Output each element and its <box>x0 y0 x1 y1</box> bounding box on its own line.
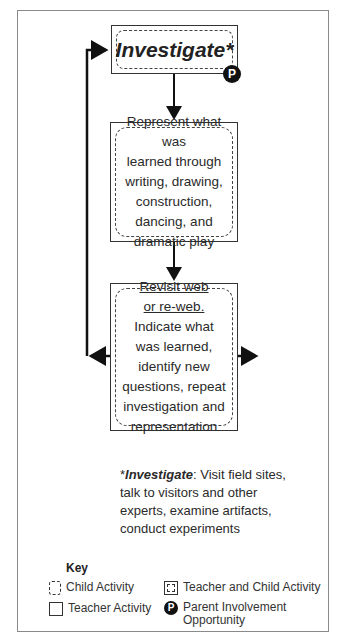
step-investigate-title: Investigate* <box>116 40 234 60</box>
key-item-parent: P Parent Involvement Opportunity <box>164 601 286 627</box>
key-label: Child Activity <box>66 581 134 594</box>
footnote-term: Investigate <box>125 467 193 482</box>
text-line: investigation and <box>123 397 224 417</box>
step-represent: Represent what was learned through writi… <box>110 122 238 242</box>
parent-involvement-icon: P <box>223 65 241 83</box>
text-line: identify new <box>138 357 209 377</box>
step-revisit: Revisit web or re-web. Indicate what was… <box>110 283 238 431</box>
text-line: questions, repeat <box>122 377 226 397</box>
parent-involvement-icon: P <box>164 601 178 615</box>
text-line: writing, drawing, <box>125 172 223 192</box>
arrow-loop-back <box>87 50 106 356</box>
text-line-underlined: or re-web. <box>144 297 205 317</box>
text-line: construction, <box>136 192 213 212</box>
key-label-group: Parent Involvement Opportunity <box>183 601 286 627</box>
child-activity-icon <box>49 581 61 595</box>
key-label: Teacher and Child Activity <box>183 581 320 594</box>
text-line: dancing, and <box>135 212 212 232</box>
text-line: Indicate what <box>134 317 214 337</box>
text-line: learned through <box>127 152 222 172</box>
teacher-activity-icon <box>49 602 63 616</box>
key-item-teacher: Teacher Activity <box>49 602 151 616</box>
step-investigate: Investigate* <box>111 25 238 74</box>
text-line: dramatic play <box>134 232 214 252</box>
footnote: *Investigate: Visit field sites, talk to… <box>120 466 290 538</box>
text-line: was learned, <box>136 337 213 357</box>
teacher-child-activity-icon <box>164 581 178 595</box>
key-title: Key <box>66 561 88 575</box>
key-item-teacher-child: Teacher and Child Activity <box>164 581 320 595</box>
key-item-child: Child Activity <box>49 581 134 595</box>
text-line: Represent what was <box>116 112 232 152</box>
text-line-underlined: Revisit web <box>139 277 208 297</box>
key-label: Opportunity <box>183 614 286 627</box>
text-line: representation <box>131 417 217 437</box>
key-label: Teacher Activity <box>68 602 151 615</box>
